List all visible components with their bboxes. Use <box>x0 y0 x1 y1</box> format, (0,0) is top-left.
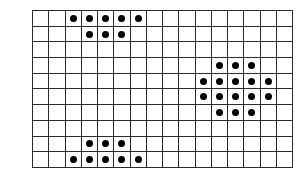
grid-cell-empty <box>49 42 65 58</box>
grid-cell-empty <box>244 26 260 42</box>
dot-marker <box>216 93 223 100</box>
grid-cell-empty <box>146 152 162 168</box>
grid-cell-empty <box>179 73 195 89</box>
grid-cell-empty <box>130 42 146 58</box>
grid-cell-empty <box>276 58 292 74</box>
grid-cell-empty <box>146 89 162 105</box>
grid-cell-empty <box>114 42 130 58</box>
grid-body <box>33 11 293 168</box>
grid-cell-empty <box>211 136 227 152</box>
dot-marker <box>248 62 255 69</box>
dot-marker <box>118 31 125 38</box>
grid-cell-empty <box>114 89 130 105</box>
grid-cell-empty <box>260 26 276 42</box>
grid-cell-empty <box>163 89 179 105</box>
grid-cell-empty <box>195 120 211 136</box>
grid-cell-empty <box>211 26 227 42</box>
grid-cell-empty <box>49 11 65 27</box>
grid-cell-empty <box>33 120 49 136</box>
dot-marker <box>118 15 125 22</box>
grid-cell-filled <box>130 152 146 168</box>
grid-cell-empty <box>49 136 65 152</box>
grid-cell-filled <box>114 152 130 168</box>
grid-cell-empty <box>163 11 179 27</box>
grid-cell-empty <box>179 58 195 74</box>
dot-marker <box>118 140 125 147</box>
grid-cell-empty <box>49 152 65 168</box>
grid-cell-empty <box>98 42 114 58</box>
dot-marker <box>86 140 93 147</box>
grid-cell-filled <box>244 89 260 105</box>
grid-cell-empty <box>130 73 146 89</box>
grid-cell-empty <box>65 120 81 136</box>
grid-cell-empty <box>276 26 292 42</box>
grid-cell-empty <box>179 89 195 105</box>
grid-cell-empty <box>211 152 227 168</box>
dot-marker <box>232 78 239 85</box>
grid-cell-empty <box>33 42 49 58</box>
grid-cell-empty <box>146 58 162 74</box>
grid-cell-empty <box>179 152 195 168</box>
dot-marker <box>86 156 93 163</box>
grid-cell-empty <box>228 11 244 27</box>
grid-cell-empty <box>114 58 130 74</box>
grid-cell-empty <box>81 42 97 58</box>
grid-cell-empty <box>33 26 49 42</box>
grid-row <box>33 58 293 74</box>
grid-cell-empty <box>260 136 276 152</box>
grid-cell-filled <box>195 73 211 89</box>
grid-cell-empty <box>163 58 179 74</box>
grid-cell-empty <box>179 42 195 58</box>
dot-marker <box>248 78 255 85</box>
grid-cell-empty <box>130 89 146 105</box>
grid-cell-filled <box>98 136 114 152</box>
grid-cell-empty <box>260 120 276 136</box>
grid-cell-empty <box>65 73 81 89</box>
grid-cell-empty <box>114 120 130 136</box>
grid-cell-empty <box>49 73 65 89</box>
grid-cell-empty <box>65 105 81 121</box>
dot-marker <box>216 62 223 69</box>
grid-cell-empty <box>114 73 130 89</box>
grid-cell-empty <box>195 26 211 42</box>
grid-cell-filled <box>228 58 244 74</box>
grid-cell-empty <box>228 120 244 136</box>
grid-cell-filled <box>244 73 260 89</box>
grid-cell-empty <box>130 58 146 74</box>
grid-row <box>33 152 293 168</box>
grid-cell-empty <box>130 26 146 42</box>
grid-row <box>33 89 293 105</box>
grid-cell-empty <box>49 105 65 121</box>
grid-cell-empty <box>33 136 49 152</box>
grid-cell-empty <box>81 120 97 136</box>
dot-marker <box>102 140 109 147</box>
grid-cell-empty <box>228 26 244 42</box>
dot-marker <box>102 31 109 38</box>
dot-marker <box>86 31 93 38</box>
dot-marker <box>265 78 272 85</box>
grid-row <box>33 120 293 136</box>
grid-cell-empty <box>146 105 162 121</box>
grid-cell-empty <box>179 11 195 27</box>
grid-cell-filled <box>130 11 146 27</box>
grid-cell-empty <box>260 42 276 58</box>
grid-cell-filled <box>81 136 97 152</box>
grid-cell-empty <box>33 105 49 121</box>
grid-cell-empty <box>260 58 276 74</box>
grid-cell-empty <box>98 89 114 105</box>
grid-cell-empty <box>33 89 49 105</box>
grid-cell-filled <box>98 11 114 27</box>
grid-cell-empty <box>49 120 65 136</box>
grid-cell-filled <box>114 136 130 152</box>
grid-cell-empty <box>146 42 162 58</box>
grid-cell-empty <box>33 152 49 168</box>
grid-cell-empty <box>179 120 195 136</box>
grid-cell-empty <box>211 120 227 136</box>
grid-cell-empty <box>260 152 276 168</box>
dot-marker <box>86 15 93 22</box>
dot-grid-figure <box>0 0 301 177</box>
grid-cell-empty <box>228 42 244 58</box>
grid-cell-empty <box>163 152 179 168</box>
dot-marker <box>232 93 239 100</box>
grid-cell-empty <box>98 120 114 136</box>
